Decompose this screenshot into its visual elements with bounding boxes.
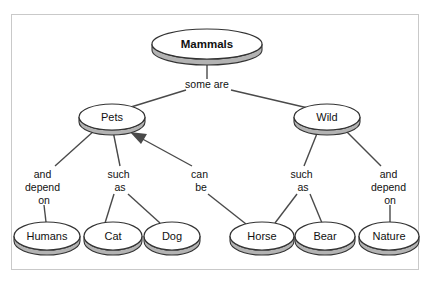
edge-label-line: such — [107, 168, 129, 180]
node-label-dog: Dog — [162, 230, 182, 242]
edge-label-line: on — [384, 194, 396, 206]
connector-some-are-wild — [231, 90, 308, 108]
node-wild[interactable]: Wild — [294, 104, 360, 135]
edge-label-and-depend-on-left: and depend on — [25, 168, 63, 206]
node-label-humans: Humans — [27, 230, 68, 242]
node-bear[interactable]: Bear — [295, 222, 355, 255]
node-label-pets: Pets — [101, 111, 124, 123]
arrowhead-icon — [130, 132, 147, 144]
connector-can-be-pets — [137, 136, 192, 166]
edge-label-line: be — [195, 181, 207, 193]
connector-such-as-cat — [105, 194, 114, 223]
edge-label-line: can — [191, 168, 208, 180]
connector-wild-and-depend-on — [345, 130, 381, 166]
node-pets[interactable]: Pets — [79, 104, 145, 135]
node-label-nature: Nature — [372, 230, 405, 242]
node-label-horse: Horse — [247, 230, 276, 242]
edge-label-line: depend — [371, 181, 406, 193]
edge-label-line: such — [290, 168, 312, 180]
connector-pets-such-as — [113, 131, 120, 166]
node-horse[interactable]: Horse — [230, 222, 294, 255]
connector-pets-and-depend-on — [55, 130, 95, 166]
edge-label-such-as-right: such as — [290, 168, 315, 193]
edge-label-line: and — [34, 168, 52, 180]
edge-label-line: on — [38, 194, 50, 206]
node-nature[interactable]: Nature — [359, 222, 419, 255]
node-label-bear: Bear — [313, 230, 337, 242]
edge-label-some-are: some are — [185, 78, 229, 90]
node-label-wild: Wild — [316, 111, 337, 123]
connector-wild-such-as — [304, 131, 318, 166]
edge-label-line: as — [297, 181, 308, 193]
edge-label-line: depend — [25, 181, 60, 193]
edge-label-can-be: can be — [191, 168, 211, 193]
node-humans[interactable]: Humans — [14, 222, 80, 255]
node-mammals[interactable]: Mammals — [152, 29, 262, 65]
edge-label-line: as — [114, 181, 125, 193]
concept-map-svg: some are and depend on such as can be su… — [0, 0, 430, 282]
connector-such-as-dog — [128, 194, 160, 223]
diagram-canvas: some are and depend on such as can be su… — [0, 0, 430, 282]
node-dog[interactable]: Dog — [144, 222, 200, 255]
connector-such-as-horse — [275, 194, 297, 223]
edge-label-and-depend-on-right: and depend on — [371, 168, 409, 206]
node-label-cat: Cat — [104, 230, 121, 242]
connector-can-be-horse — [208, 194, 246, 224]
edge-label-such-as-left: such as — [107, 168, 132, 193]
edge-label-line: and — [380, 168, 398, 180]
node-cat[interactable]: Cat — [84, 222, 142, 255]
connector-some-are-pets — [131, 90, 186, 107]
connector-and-depend-on-humans — [44, 205, 46, 222]
node-label-mammals: Mammals — [181, 38, 233, 50]
connector-such-as-bear — [310, 194, 322, 223]
node-group: Mammals Pets Wild Humans Cat — [14, 29, 419, 255]
